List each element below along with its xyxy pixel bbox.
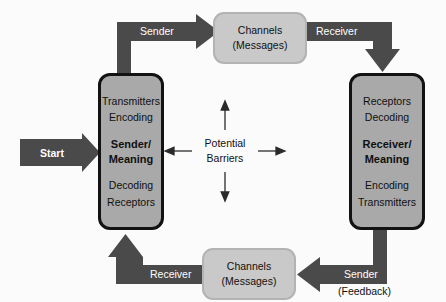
sender-party-box: Transmitters Encoding Sender/ Meaning De… [98,73,164,230]
receiver-transmitters-label: Transmitters [358,194,416,210]
receiver-receptors-label: Receptors [363,93,411,109]
channels-bottom-line2: (Messages) [222,274,277,289]
start-label: Start [20,139,84,166]
receiver-meaning-line1: Receiver/ [363,137,412,152]
flow-label-receiver-bottom: Receiver [150,268,191,280]
sender-meaning-line1: Sender/ [109,137,154,152]
sender-meaning-block: Sender/ Meaning [109,137,154,167]
channels-top-line2: (Messages) [233,38,288,53]
receiver-party-box: Receptors Decoding Receiver/ Meaning Enc… [349,73,425,230]
receiver-meaning-block: Receiver/ Meaning [363,137,412,167]
flow-label-receiver-top: Receiver [316,25,357,37]
communication-process-diagram: Start Transmitters Encoding Sender/ Mean… [0,0,446,302]
barriers-line1: Potential [205,136,246,151]
channels-bottom-box: Channels (Messages) [202,248,296,300]
start-arrow: Start [20,139,100,166]
channels-top-box: Channels (Messages) [213,12,307,64]
receiver-decoding-label: Decoding [365,109,409,125]
sender-decoding-label: Decoding [109,177,153,193]
barriers-line2: Barriers [207,151,244,166]
channels-bottom-line1: Channels [227,259,271,274]
flow-label-sender-top: Sender [140,25,174,37]
receiver-to-channels-band [297,230,387,292]
channels-top-line1: Channels [238,23,282,38]
sender-encoding-label: Encoding [109,109,153,125]
flow-label-sender-bottom: Sender [344,268,378,280]
flow-label-feedback-sub: (Feedback) [338,285,391,297]
receiver-meaning-line2: Meaning [363,152,412,167]
sender-receptors-label: Receptors [107,194,155,210]
potential-barriers-label: Potential Barriers [196,134,254,168]
receiver-encoding-label: Encoding [365,177,409,193]
sender-meaning-line2: Meaning [109,152,154,167]
sender-to-channels-band [117,14,219,73]
sender-transmitters-label: Transmitters [102,93,160,109]
